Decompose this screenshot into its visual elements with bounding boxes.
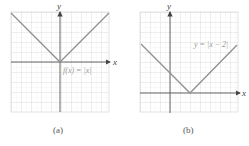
caption-a: (a)	[53, 125, 63, 135]
panel-a: y x f(x) = |x|	[11, 1, 117, 112]
y-axis-label-a: y	[56, 1, 61, 11]
panel-b: y x y = |x − 2|	[140, 1, 246, 113]
grid-b	[140, 12, 238, 112]
function-label-b: y = |x − 2|	[193, 40, 228, 49]
x-axis-label-b: x	[241, 88, 246, 98]
function-label-a: f(x) = |x|	[63, 66, 91, 75]
caption-b: (b)	[183, 125, 194, 135]
figure: y x f(x) = |x| y x y = |x − 2|	[0, 0, 249, 146]
x-axis-label-a: x	[112, 57, 117, 67]
y-axis-label-b: y	[166, 1, 171, 11]
